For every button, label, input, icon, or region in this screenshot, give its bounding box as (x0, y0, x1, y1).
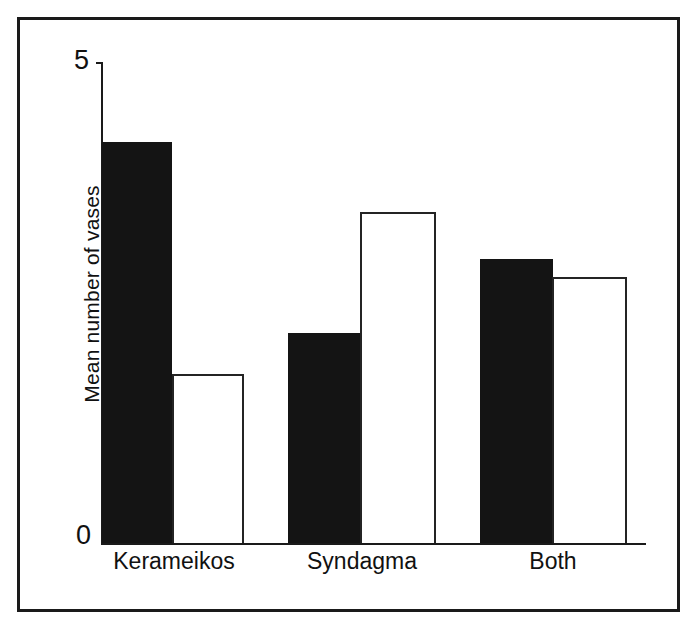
y-axis-tick-mark-5 (96, 62, 103, 64)
y-axis-tick-label-top: 5 (74, 47, 89, 74)
bar-both-open (552, 277, 627, 543)
y-axis-tick-label-bottom: 0 (76, 522, 91, 549)
bar-syndagma-open (360, 212, 436, 543)
bar-chart-plot-area: 5 0 Mean number of vases KerameikosSynda… (0, 0, 697, 634)
x-axis-category-label: Syndagma (252, 549, 472, 573)
bar-syndagma-filled (288, 333, 361, 543)
x-axis-category-label: Kerameikos (64, 549, 284, 573)
x-axis-category-label: Both (443, 549, 663, 573)
y-axis-title: Mean number of vases (80, 144, 104, 444)
bar-both-filled (480, 259, 553, 543)
x-axis-line (101, 543, 646, 545)
bar-kerameikos-open (172, 374, 244, 543)
bar-kerameikos-filled (102, 142, 172, 543)
